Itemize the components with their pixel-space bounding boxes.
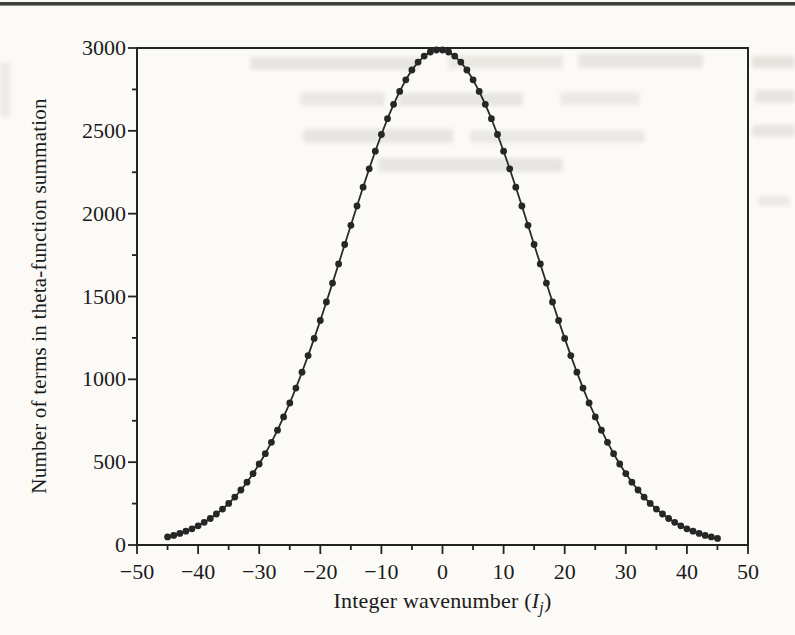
data-point [238, 487, 245, 494]
data-point [164, 534, 171, 541]
data-point [207, 515, 214, 522]
y-tick-label: 1500 [82, 284, 126, 309]
data-point [543, 280, 550, 287]
data-point [286, 400, 293, 407]
x-axis-title: Integer wavenumber (Ij) [137, 588, 748, 614]
data-point [415, 59, 422, 66]
data-point [427, 49, 434, 56]
data-point [665, 515, 672, 522]
data-point [684, 525, 691, 532]
x-axis-title-suffix: ) [544, 588, 552, 613]
x-tick-label: −30 [242, 559, 276, 584]
data-point [580, 385, 587, 392]
data-point [274, 427, 281, 434]
data-point [433, 47, 440, 54]
data-point [348, 222, 355, 229]
data-point [525, 222, 532, 229]
data-point [176, 530, 183, 537]
data-point [372, 148, 379, 155]
plot-canvas: −50−40−30−20−100102030405005001000150020… [0, 0, 795, 635]
data-point [366, 165, 373, 172]
data-point [622, 470, 629, 477]
data-point [610, 450, 617, 457]
data-point [567, 352, 574, 359]
data-point [409, 67, 416, 74]
data-point [677, 522, 684, 529]
data-point [641, 494, 648, 501]
data-point [225, 500, 232, 507]
data-point [341, 241, 348, 248]
data-point [604, 439, 611, 446]
y-tick-label: 3000 [82, 35, 126, 60]
data-point [378, 131, 385, 138]
data-point [262, 450, 269, 457]
data-point [305, 352, 312, 359]
data-point [537, 261, 544, 268]
data-point [201, 519, 208, 526]
data-point [311, 335, 318, 342]
data-point [696, 530, 703, 537]
data-point [189, 525, 196, 532]
data-point [519, 203, 526, 210]
x-tick-label: 50 [737, 559, 759, 584]
data-point [586, 400, 593, 407]
data-point [256, 461, 263, 468]
x-tick-label: −20 [303, 559, 337, 584]
scanned-page: −50−40−30−20−100102030405005001000150020… [0, 0, 795, 635]
data-point [653, 506, 660, 513]
data-point [659, 511, 666, 518]
data-point [445, 49, 452, 56]
data-point [512, 184, 519, 191]
data-point [439, 47, 446, 54]
data-point [647, 500, 654, 507]
data-point [396, 88, 403, 95]
y-tick-label: 2500 [82, 118, 126, 143]
data-point [555, 317, 562, 324]
data-point [280, 414, 287, 421]
data-point [598, 427, 605, 434]
x-tick-label: 20 [554, 559, 576, 584]
data-point [170, 532, 177, 539]
data-point [390, 101, 397, 108]
plot-border [137, 48, 748, 545]
data-point [384, 115, 391, 122]
data-point [244, 479, 251, 486]
data-point [702, 532, 709, 539]
data-point [451, 53, 458, 60]
data-point [549, 299, 556, 306]
data-point [531, 241, 538, 248]
data-point [219, 506, 226, 513]
data-point [250, 470, 257, 477]
data-point [592, 414, 599, 421]
data-point [317, 317, 324, 324]
data-point [323, 299, 330, 306]
data-point [457, 59, 464, 66]
data-point [671, 519, 678, 526]
data-point [354, 203, 361, 210]
data-point [635, 487, 642, 494]
data-point [574, 369, 581, 376]
y-tick-label: 0 [115, 532, 126, 557]
data-point [714, 535, 721, 542]
data-point [335, 261, 342, 268]
x-tick-label: 30 [615, 559, 637, 584]
data-point [195, 522, 202, 529]
data-point [299, 369, 306, 376]
y-axis-title: Number of terms in theta-function summat… [27, 66, 53, 526]
data-point [616, 461, 623, 468]
data-point [231, 494, 238, 501]
y-tick-label: 2000 [82, 201, 126, 226]
x-tick-label: −40 [181, 559, 215, 584]
data-point [183, 528, 190, 535]
data-point [293, 385, 300, 392]
data-point [470, 76, 477, 83]
x-tick-label: 40 [676, 559, 698, 584]
x-tick-label: −10 [364, 559, 398, 584]
data-point [213, 511, 220, 518]
y-tick-label: 500 [93, 449, 126, 474]
x-tick-label: 10 [493, 559, 515, 584]
data-point [494, 131, 501, 138]
data-point [506, 165, 513, 172]
data-point [690, 528, 697, 535]
data-point [268, 439, 275, 446]
